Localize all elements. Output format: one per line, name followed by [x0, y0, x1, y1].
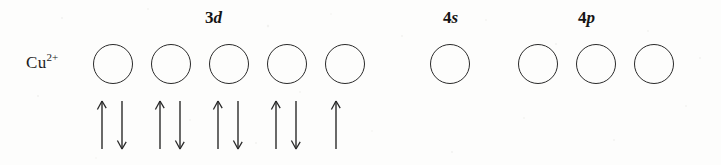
- orbital-circle-4p-2: [576, 44, 616, 84]
- spin-arrows-3d-3: [209, 100, 249, 152]
- subshell-label-4p: 4p: [578, 8, 595, 28]
- orbital-circle-3d-1: [93, 44, 133, 84]
- spin-arrows-3d-5: [325, 100, 365, 152]
- orbital-diagram-canvas: Cu2+ 3d4s4p: [0, 0, 721, 165]
- subshell-principal-number: 3: [205, 8, 214, 27]
- orbital-circle-4s-1: [430, 44, 470, 84]
- orbital-circle-3d-2: [151, 44, 191, 84]
- subshell-letter: d: [214, 8, 223, 27]
- arrow-up-icon: [329, 100, 343, 152]
- orbital-circle-3d-5: [325, 44, 365, 84]
- ion-charge: 2+: [46, 51, 58, 63]
- arrow-down-icon: [173, 100, 187, 152]
- arrow-down-icon: [289, 100, 303, 152]
- subshell-principal-number: 4: [578, 8, 587, 27]
- subshell-letter: p: [587, 8, 596, 27]
- arrow-down-icon: [231, 100, 245, 152]
- spin-arrows-3d-4: [267, 100, 307, 152]
- orbital-circle-4p-1: [518, 44, 558, 84]
- subshell-label-3d: 3d: [205, 8, 222, 28]
- arrow-down-icon: [115, 100, 129, 152]
- orbital-circle-3d-3: [209, 44, 249, 84]
- orbital-circle-4p-3: [634, 44, 674, 84]
- arrow-up-icon: [269, 100, 283, 152]
- arrow-up-icon: [95, 100, 109, 152]
- ion-label: Cu2+: [26, 51, 58, 73]
- spin-arrows-3d-1: [93, 100, 133, 152]
- arrow-up-icon: [211, 100, 225, 152]
- orbital-circle-3d-4: [267, 44, 307, 84]
- subshell-letter: s: [452, 8, 459, 27]
- ion-symbol: Cu: [26, 53, 46, 72]
- spin-arrows-3d-2: [151, 100, 191, 152]
- arrow-up-icon: [153, 100, 167, 152]
- subshell-label-4s: 4s: [443, 8, 458, 28]
- subshell-principal-number: 4: [443, 8, 452, 27]
